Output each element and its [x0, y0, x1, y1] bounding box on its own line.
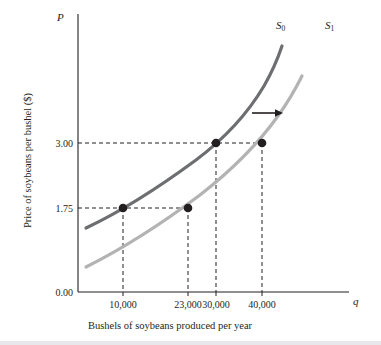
y-axis-symbol: P [57, 12, 64, 23]
xtick-label-40000: 40,000 [232, 300, 292, 310]
ytick-label-300: 3.00 [28, 139, 73, 149]
bottom-divider [0, 341, 381, 345]
y-axis-title: Price of soybeans per bushel ($) [22, 71, 33, 251]
xtick-label-10000: 10,000 [93, 300, 153, 310]
supply-curve-s1 [86, 76, 302, 267]
data-point-23000-175 [184, 204, 193, 213]
data-point-40000-300 [258, 139, 267, 148]
curve-label-s1: S1 [325, 20, 334, 31]
x-axis-title: Bushels of soybeans produced per year [0, 320, 340, 331]
data-point-10000-175 [119, 204, 128, 213]
x-axis-symbol: q [353, 296, 359, 307]
supply-curve-s0 [86, 46, 282, 228]
ytick-label-000: 0.00 [28, 288, 73, 298]
curve-label-s1-sub: 1 [331, 24, 335, 33]
data-point-30000-300 [212, 139, 221, 148]
ytick-label-175: 1.75 [28, 204, 73, 214]
supply-curve-figure: P q S0 S1 3.00 1.75 0.00 10,000 23,000 3… [0, 0, 381, 345]
curve-label-s0-sub: 0 [282, 24, 286, 33]
curve-label-s1-main: S [325, 19, 331, 31]
curve-label-s0-main: S [276, 19, 282, 31]
curve-label-s0: S0 [276, 20, 285, 31]
